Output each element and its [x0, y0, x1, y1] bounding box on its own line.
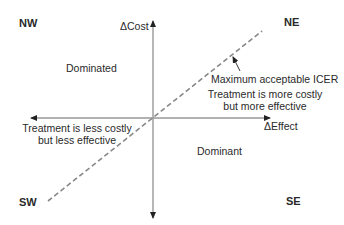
dominant-label: Dominant [197, 145, 242, 157]
sw-description-line2: but less effective [12, 134, 142, 146]
cost-effectiveness-plane [0, 0, 344, 225]
icer-pointer-arrow [233, 57, 240, 71]
icer-threshold-line [48, 31, 262, 201]
sw-description: Treatment is less costly but less effect… [12, 122, 142, 146]
quadrant-label-nw: NW [19, 17, 37, 29]
dominated-label: Dominated [66, 62, 117, 74]
quadrant-label-ne: NE [284, 16, 299, 28]
quadrant-label-se: SE [286, 195, 301, 207]
quadrant-label-sw: SW [19, 196, 37, 208]
ne-description-line2: but more effective [200, 100, 330, 112]
x-axis-label: ΔEffect [264, 120, 298, 132]
sw-description-line1: Treatment is less costly [12, 122, 142, 134]
ne-description-line1: Treatment is more costly [200, 88, 330, 100]
ne-description: Treatment is more costly but more effect… [200, 88, 330, 112]
y-axis-label: ΔCost [120, 20, 149, 32]
icer-label: Maximum acceptable ICER [211, 73, 338, 85]
